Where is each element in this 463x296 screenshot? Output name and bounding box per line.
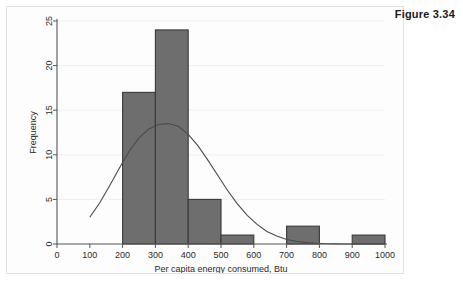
x-tick-label: 0 xyxy=(54,250,59,260)
x-tick-label: 500 xyxy=(213,250,228,260)
histogram-bar xyxy=(123,92,156,244)
y-tick-label: 25 xyxy=(44,16,54,26)
y-tick-label: 20 xyxy=(44,61,54,71)
histogram-bar xyxy=(352,235,385,244)
x-tick-label: 800 xyxy=(312,250,327,260)
y-axis-title: Frequency xyxy=(28,111,38,154)
x-axis-ticks: 01002003004005006007008009001000 xyxy=(54,244,395,260)
histogram-bar xyxy=(188,199,221,244)
histogram-chart: 01002003004005006007008009001000 0510152… xyxy=(7,7,403,273)
x-tick-label: 100 xyxy=(82,250,97,260)
histogram-bar xyxy=(221,235,254,244)
x-tick-label: 1000 xyxy=(375,250,395,260)
x-tick-label: 200 xyxy=(115,250,130,260)
y-tick-label: 10 xyxy=(44,150,54,160)
x-tick-label: 600 xyxy=(246,250,261,260)
x-tick-label: 400 xyxy=(181,250,196,260)
gridlines xyxy=(57,21,385,199)
chart-panel: 01002003004005006007008009001000 0510152… xyxy=(6,6,404,274)
y-tick-label: 5 xyxy=(44,197,54,202)
x-tick-label: 700 xyxy=(279,250,294,260)
axes-layer xyxy=(57,19,387,244)
histogram-bar xyxy=(287,226,320,244)
figure-root: 01002003004005006007008009001000 0510152… xyxy=(0,0,463,296)
y-axis-ticks: 0510152025 xyxy=(44,16,57,247)
histogram-bar xyxy=(155,30,188,244)
figure-caption: Figure 3.34 xyxy=(395,8,455,20)
x-tick-label: 300 xyxy=(148,250,163,260)
y-tick-label: 0 xyxy=(44,241,54,246)
y-tick-label: 15 xyxy=(44,105,54,115)
bars-layer xyxy=(123,30,385,244)
x-tick-label: 900 xyxy=(345,250,360,260)
x-axis-title: Per capita energy consumed, Btu xyxy=(154,264,287,273)
